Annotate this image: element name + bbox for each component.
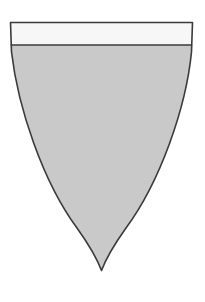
shield-chief-area bbox=[10, 23, 192, 46]
figure-canvas bbox=[0, 0, 205, 302]
heraldic-shield-figure bbox=[0, 0, 205, 302]
